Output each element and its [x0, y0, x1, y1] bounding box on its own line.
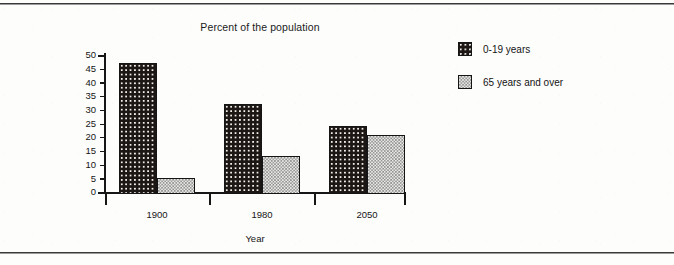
y-tick-label-20: 20 — [70, 132, 96, 142]
y-tick-15 — [100, 151, 106, 152]
y-tick-label-45: 45 — [70, 64, 96, 74]
legend-swatch-icon-0-19-years — [458, 42, 472, 56]
x-axis-title: Year — [104, 233, 406, 244]
legend-item-0-19-years: 0-19 years — [458, 42, 658, 56]
y-tick-40 — [100, 82, 106, 83]
chart-legend: 0-19 years 65 years and over — [458, 42, 658, 108]
page-rule-top — [0, 3, 674, 5]
y-tick-5 — [100, 178, 106, 179]
x-tick-label-1980: 1980 — [227, 209, 297, 220]
bar-2050-65-years-and-over — [367, 135, 405, 195]
plot-area: 50 45 40 35 30 25 20 15 10 5 0 — [0, 6, 440, 250]
legend-item-65-years-and-over: 65 years and over — [458, 75, 658, 89]
y-tick-label-40: 40 — [70, 78, 96, 88]
y-tick-label-50: 50 — [70, 50, 96, 60]
y-tick-20 — [100, 137, 106, 138]
y-tick-45 — [100, 69, 106, 70]
y-tick-50 — [98, 55, 106, 57]
bar-chart-figure: Percent of the population 50 45 40 35 30… — [0, 6, 674, 250]
scanned-page: Percent of the population 50 45 40 35 30… — [0, 0, 674, 265]
page-rule-bottom — [0, 252, 674, 254]
bar-2050-0-19-years — [329, 126, 367, 194]
legend-swatch-icon-65-years-and-over — [458, 75, 472, 89]
y-tick-label-10: 10 — [70, 160, 96, 170]
y-tick-10 — [100, 165, 106, 166]
y-tick-30 — [100, 110, 106, 111]
x-tick-start — [105, 194, 107, 205]
bar-1980-65-years-and-over — [262, 156, 300, 194]
bar-1980-0-19-years — [224, 104, 262, 194]
legend-label-0-19-years: 0-19 years — [483, 44, 530, 55]
y-tick-label-5: 5 — [70, 174, 96, 184]
y-tick-label-15: 15 — [70, 146, 96, 156]
x-tick-end — [404, 194, 406, 205]
y-tick-label-0: 0 — [70, 187, 96, 197]
legend-label-65-years-and-over: 65 years and over — [483, 77, 563, 88]
y-tick-label-30: 30 — [70, 105, 96, 115]
y-tick-35 — [100, 96, 106, 97]
x-tick-label-2050: 2050 — [332, 209, 402, 220]
bar-1900-0-19-years — [119, 63, 157, 194]
x-tick-label-1900: 1900 — [122, 209, 192, 220]
y-tick-25 — [100, 124, 106, 125]
bar-1900-65-years-and-over — [157, 178, 195, 194]
x-tick-1 — [209, 194, 211, 205]
y-tick-label-25: 25 — [70, 119, 96, 129]
x-tick-2 — [314, 194, 316, 205]
y-tick-label-35: 35 — [70, 91, 96, 101]
